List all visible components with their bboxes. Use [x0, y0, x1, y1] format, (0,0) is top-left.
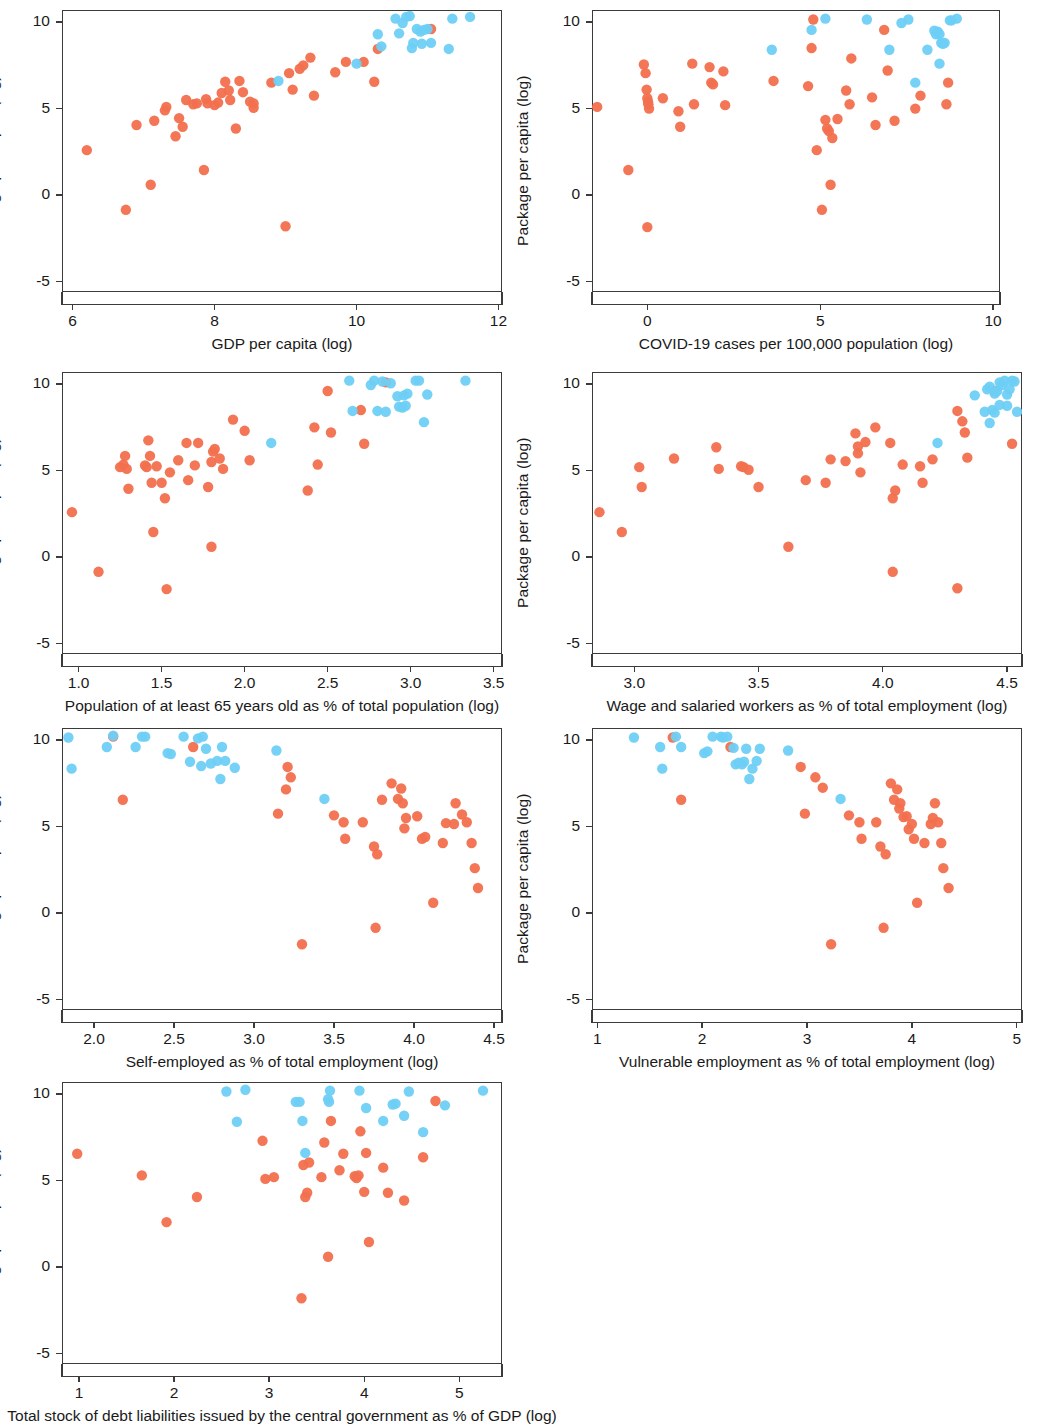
data-point [404, 1086, 414, 1096]
data-point [269, 1172, 279, 1182]
data-point [354, 1085, 364, 1095]
x-tick-mark [173, 1376, 174, 1382]
data-point [338, 1149, 348, 1159]
data-point [418, 1127, 428, 1137]
data-point [319, 1137, 329, 1147]
data-point [378, 1162, 388, 1172]
data-point [221, 1086, 231, 1096]
x-tick-label: 1 [49, 1384, 109, 1402]
y-axis-label: Package per capita (log) [0, 1148, 2, 1318]
data-point [72, 1149, 82, 1159]
data-point [361, 1148, 371, 1158]
y-tick-mark [56, 1093, 62, 1094]
x-tick-mark [364, 1376, 365, 1382]
data-point [257, 1136, 267, 1146]
x-tick-label: 2 [144, 1384, 204, 1402]
data-point [161, 1217, 171, 1227]
data-point [300, 1148, 310, 1158]
data-point [378, 1116, 388, 1126]
data-point [361, 1103, 371, 1113]
data-points-layer [62, 1082, 502, 1364]
data-point [418, 1152, 428, 1162]
data-point [334, 1165, 344, 1175]
data-point [390, 1098, 400, 1108]
data-point [302, 1188, 312, 1198]
data-point [296, 1293, 306, 1303]
x-tick-mark [268, 1376, 269, 1382]
data-point [297, 1116, 307, 1126]
data-point [137, 1170, 147, 1180]
x-axis-cap [501, 1364, 502, 1377]
data-point [316, 1172, 326, 1182]
data-point [260, 1174, 270, 1184]
data-point [353, 1170, 363, 1180]
data-point [323, 1252, 333, 1262]
data-point [399, 1195, 409, 1205]
data-point [326, 1116, 336, 1126]
data-point [399, 1111, 409, 1121]
y-tick-label: 10 [0, 1084, 50, 1102]
x-tick-label: 3 [239, 1384, 299, 1402]
data-point [324, 1097, 334, 1107]
x-tick-label: 5 [429, 1384, 489, 1402]
data-point [304, 1157, 314, 1167]
x-axis-line [62, 1376, 502, 1377]
data-point [364, 1237, 374, 1247]
data-point [240, 1085, 250, 1095]
y-tick-label: 5 [0, 1171, 50, 1189]
data-point [325, 1085, 335, 1095]
x-axis-label: Total stock of debt liabilities issued b… [0, 1407, 592, 1425]
data-point [359, 1187, 369, 1197]
series-emerging [72, 1096, 441, 1304]
x-tick-mark [459, 1376, 460, 1382]
data-point [192, 1192, 202, 1202]
data-point [440, 1100, 450, 1110]
y-tick-mark [56, 1266, 62, 1267]
data-point [232, 1117, 242, 1127]
x-axis-cap [61, 1364, 62, 1377]
series-advanced [221, 1085, 488, 1159]
x-tick-mark [78, 1376, 79, 1382]
y-tick-mark [56, 1353, 62, 1354]
data-point [383, 1188, 393, 1198]
data-point [355, 1126, 365, 1136]
data-point [294, 1097, 304, 1107]
y-tick-label: -5 [0, 1344, 50, 1362]
y-tick-label: 0 [0, 1257, 50, 1275]
data-point [430, 1096, 440, 1106]
x-tick-label: 4 [334, 1384, 394, 1402]
data-point [478, 1085, 488, 1095]
y-tick-mark [56, 1180, 62, 1181]
